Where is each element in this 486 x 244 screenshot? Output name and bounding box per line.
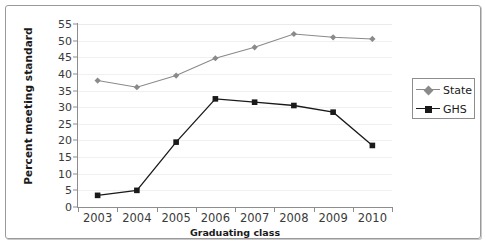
y-axis-tick-mark [73, 40, 77, 41]
legend-item-ghs: GHS [413, 99, 474, 119]
y-axis-tick-mark [73, 123, 77, 124]
y-axis-tick-label: 30 [58, 101, 72, 114]
diamond-marker-icon [369, 36, 375, 42]
legend-key-ghs [416, 102, 440, 116]
square-marker-icon [291, 103, 297, 109]
diamond-marker-icon [212, 55, 218, 61]
x-axis-tick-label: 2009 [318, 211, 347, 225]
y-axis-tick-mark [73, 190, 77, 191]
square-marker-icon [95, 193, 101, 199]
x-axis-tick-mark [235, 208, 236, 212]
y-axis-tick-mark [73, 24, 77, 25]
x-axis-tick-label: 2005 [161, 211, 190, 225]
y-axis-tick-label: 0 [65, 201, 72, 214]
y-axis-tick-mark [73, 57, 77, 58]
y-axis-tick-label: 35 [58, 84, 72, 97]
y-axis-tick-mark [73, 73, 77, 74]
series-line-state [98, 34, 373, 87]
x-axis-tick-mark [353, 208, 354, 212]
x-axis-tick-mark [274, 208, 275, 212]
square-marker-icon [425, 106, 432, 113]
square-marker-icon [330, 109, 336, 115]
x-axis-tick-label: 2006 [201, 211, 230, 225]
y-axis-tick-label: 5 [65, 184, 72, 197]
diamond-marker-icon [424, 85, 434, 95]
diamond-marker-icon [291, 31, 297, 37]
x-axis-tick-mark [314, 208, 315, 212]
y-axis-tick-mark [73, 140, 77, 141]
y-axis-tick-label: 45 [58, 51, 72, 64]
chart-figure: Percent meeting standard 051015202530354… [0, 0, 486, 244]
y-axis-tick-mark [73, 90, 77, 91]
y-axis-tick-label: 10 [58, 167, 72, 180]
square-marker-icon [134, 188, 140, 194]
square-marker-icon [252, 99, 258, 105]
diamond-marker-icon [252, 44, 258, 50]
y-axis-tick-mark [73, 157, 77, 158]
legend-key-state [416, 83, 440, 97]
y-axis-tick-label: 15 [58, 151, 72, 164]
y-axis-tick-labels: 0510152025303540455055 [48, 18, 72, 212]
square-marker-icon [173, 139, 179, 145]
y-axis-tick-label: 20 [58, 134, 72, 147]
y-axis-tick-mark [73, 107, 77, 108]
x-axis-tick-label: 2007 [240, 211, 269, 225]
y-axis-tick-mark [73, 207, 77, 208]
series-layer [78, 24, 392, 207]
legend-item-state: State [413, 80, 474, 100]
x-axis-title: Graduating class [78, 227, 392, 238]
legend-label-state: State [443, 84, 472, 97]
square-marker-icon [213, 96, 219, 102]
x-axis-tick-mark [117, 208, 118, 212]
x-axis-tick-label: 2008 [279, 211, 308, 225]
x-axis-tick-mark [157, 208, 158, 212]
x-axis-tick-label: 2003 [83, 211, 112, 225]
diamond-marker-icon [173, 72, 179, 78]
chart-legend: State GHS [412, 78, 475, 119]
x-axis-tick-mark [196, 208, 197, 212]
y-axis-tick-mark [73, 173, 77, 174]
square-marker-icon [370, 143, 376, 149]
legend-label-ghs: GHS [443, 103, 467, 116]
y-axis-tick-label: 55 [58, 18, 72, 31]
diamond-marker-icon [330, 34, 336, 40]
y-axis-tick-label: 40 [58, 67, 72, 80]
y-axis-title: Percent meeting standard [22, 6, 34, 206]
x-axis-tick-label: 2004 [122, 211, 151, 225]
x-axis-tick-mark [78, 208, 79, 212]
diamond-marker-icon [134, 84, 140, 90]
x-axis-tick-label: 2010 [358, 211, 387, 225]
diamond-marker-icon [95, 77, 101, 83]
y-axis-tick-label: 25 [58, 117, 72, 130]
x-axis-tick-mark [392, 208, 393, 212]
y-axis-tick-label: 50 [58, 34, 72, 47]
